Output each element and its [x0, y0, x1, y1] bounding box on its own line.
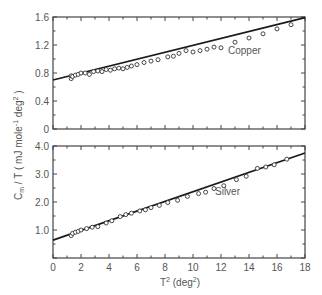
data-point [79, 71, 83, 75]
y-tick-label: 0.8 [35, 68, 49, 79]
data-point [204, 190, 208, 194]
data-point [79, 228, 83, 232]
data-point [198, 49, 202, 53]
data-point [205, 47, 209, 51]
data-point [234, 178, 238, 182]
data-point [184, 49, 188, 53]
x-tick-label: 18 [299, 262, 311, 273]
data-point [272, 163, 276, 167]
x-tick-label: 16 [271, 262, 283, 273]
data-point [166, 201, 170, 205]
y-axis-title-deg: deg [13, 100, 24, 119]
data-point [117, 66, 121, 70]
data-point [121, 67, 125, 71]
x-tick-label: 6 [134, 262, 140, 273]
copper-label: Copper [228, 45, 261, 56]
y-axis-title-body: / T ( mJ mole [13, 126, 24, 187]
copper-panel: 00.40.81.21.6 Copper [35, 12, 305, 135]
data-point [92, 70, 96, 74]
data-point [143, 208, 147, 212]
data-point [83, 71, 87, 75]
x-tick-label: 8 [162, 262, 168, 273]
data-point [285, 157, 289, 161]
data-point [177, 51, 181, 55]
data-point [129, 211, 133, 215]
data-point [264, 165, 268, 169]
data-point [191, 50, 195, 54]
y-axis-title-c: C [13, 193, 24, 200]
data-point [149, 206, 153, 210]
data-point [176, 198, 180, 202]
x-axis-title-close: ) [197, 277, 200, 288]
chart-svg: 00.40.81.21.6 Copper 1.02.03.04.0 024681… [0, 0, 322, 295]
data-point [142, 61, 146, 65]
silver-y-tick-labels: 1.02.03.04.0 [35, 141, 49, 236]
data-point [85, 227, 89, 231]
data-point [135, 63, 139, 67]
data-point [149, 59, 153, 63]
x-tick-label: 2 [78, 262, 84, 273]
copper-fit-line [53, 18, 305, 80]
y-tick-label: 2.0 [35, 197, 49, 208]
y-tick-label: 1.6 [35, 12, 49, 23]
data-point [185, 194, 189, 198]
y-tick-label: 1.0 [35, 225, 49, 236]
data-point [212, 45, 216, 49]
x-tick-label: 12 [215, 262, 227, 273]
data-point [247, 36, 251, 40]
data-point [157, 203, 161, 207]
data-point [113, 67, 117, 71]
data-point [104, 221, 108, 225]
data-point [90, 225, 94, 229]
data-point [104, 68, 108, 72]
data-point [100, 70, 104, 74]
data-point [275, 27, 279, 31]
data-point [166, 55, 170, 59]
data-point [255, 166, 259, 170]
y-tick-label: 0 [43, 124, 49, 135]
y-axis-title-close: ) [13, 90, 24, 96]
data-point [96, 69, 100, 73]
x-axis-title-body: (deg [170, 277, 193, 288]
x-tick-label: 10 [187, 262, 199, 273]
data-point [118, 215, 122, 219]
y-tick-label: 0.4 [35, 96, 49, 107]
data-point [261, 32, 265, 36]
data-point [108, 68, 112, 72]
silver-panel: 1.02.03.04.0 024681012141618 Silver [35, 141, 311, 273]
data-point [87, 72, 91, 76]
data-point [138, 209, 142, 213]
data-point [171, 54, 175, 58]
copper-y-tick-labels: 00.40.81.21.6 [35, 12, 49, 135]
data-point [233, 40, 237, 44]
x-tick-label: 14 [243, 262, 255, 273]
y-tick-label: 4.0 [35, 141, 49, 152]
y-axis-title: Cm / T ( mJ mole-1 deg2 ) [12, 90, 25, 200]
silver-label: Silver [215, 186, 241, 197]
y-tick-label: 3.0 [35, 169, 49, 180]
y-tick-label: 1.2 [35, 40, 49, 51]
data-point [289, 23, 293, 27]
data-point [110, 219, 114, 223]
data-point [125, 65, 129, 69]
data-point [197, 192, 201, 196]
data-point [244, 174, 248, 178]
data-point [96, 225, 100, 229]
x-axis-title: T2 (deg2) [160, 276, 200, 288]
x-tick-label: 0 [50, 262, 56, 273]
data-point [124, 213, 128, 217]
x-tick-labels: 024681012141618 [50, 262, 311, 273]
data-point [219, 46, 223, 50]
x-tick-label: 4 [106, 262, 112, 273]
figure: 00.40.81.21.6 Copper 1.02.03.04.0 024681… [0, 0, 322, 295]
data-point [129, 64, 133, 68]
data-point [156, 58, 160, 62]
